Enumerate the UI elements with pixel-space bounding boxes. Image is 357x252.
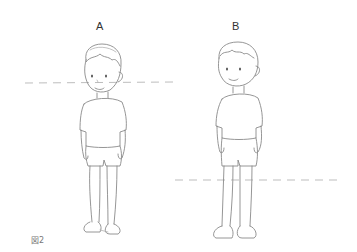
child-figure-b — [214, 42, 263, 238]
child-figure-a — [80, 44, 126, 234]
figure-caption: 図2 — [31, 234, 44, 245]
guide-line-a — [25, 82, 175, 83]
sketch-illustration — [0, 0, 357, 252]
